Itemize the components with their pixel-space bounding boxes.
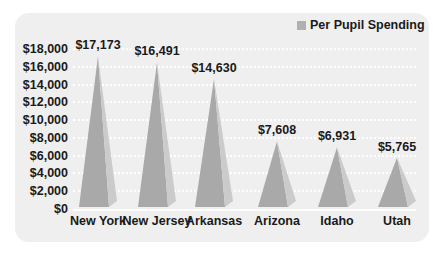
x-tick-label: Utah (383, 214, 411, 228)
value-label: $14,630 (191, 61, 236, 75)
value-label: $7,608 (258, 123, 296, 137)
x-tick-label: New Jersey (123, 214, 192, 228)
x-tick-label: Arizona (254, 214, 300, 228)
x-tick-label: Idaho (320, 214, 353, 228)
value-label: $5,765 (378, 140, 416, 154)
x-tick-label: New York (70, 214, 126, 228)
x-tick-label: Arkansas (186, 214, 242, 228)
value-label: $6,931 (318, 129, 356, 143)
value-label: $17,173 (75, 38, 120, 52)
value-label: $16,491 (134, 44, 179, 58)
